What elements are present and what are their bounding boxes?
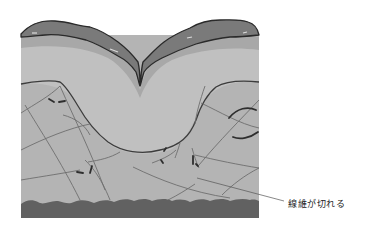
callout-label-fibers-cut: 線維が切れる: [288, 197, 345, 210]
subcutaneous-layer: [21, 199, 259, 218]
